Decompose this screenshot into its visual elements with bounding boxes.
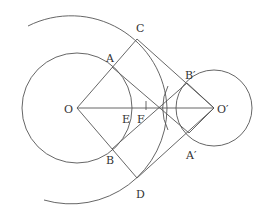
label-f: F [137, 113, 145, 126]
line-oc [77, 39, 137, 108]
label-a: A [105, 52, 115, 65]
label-b: B [106, 154, 114, 167]
label-e: E [122, 113, 130, 126]
label-c: C [136, 22, 144, 35]
label-b-prime: B′ [185, 69, 196, 82]
label-o-prime: O′ [217, 103, 229, 116]
diagram-canvas: O O′ A B C D E F A′ B′ [0, 0, 261, 215]
line-oprime-bprime [187, 83, 214, 108]
label-o: O [64, 103, 73, 116]
label-d: D [136, 188, 145, 201]
geometry-figure: O O′ A B C D E F A′ B′ [0, 0, 261, 215]
line-oprime-aprime [189, 108, 214, 133]
line-d-oprime [137, 108, 214, 178]
label-a-prime: A′ [185, 149, 197, 162]
